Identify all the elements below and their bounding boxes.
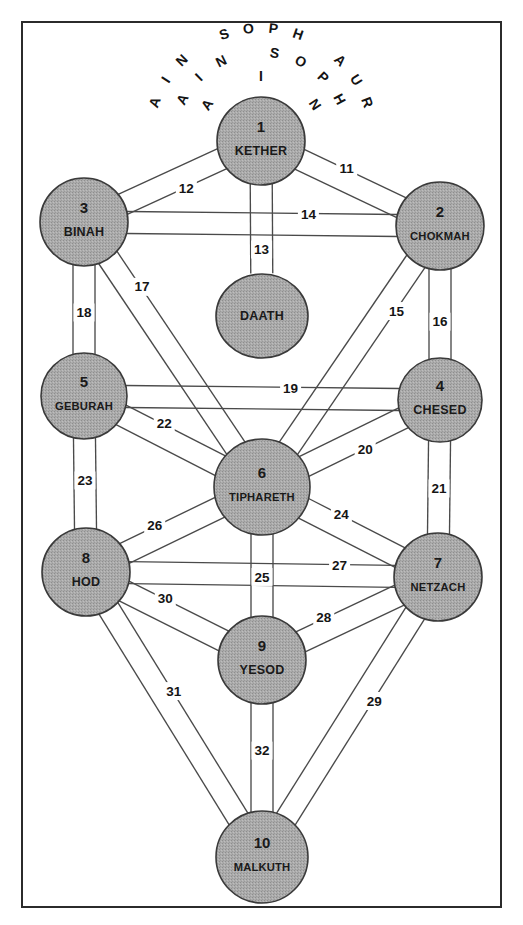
sephirah-malkuth[interactable]: 10MALKUTH [216,811,308,903]
path-number: 20 [358,442,373,457]
sephirah-hod[interactable]: 8HOD [42,528,130,616]
sephirah-number-malkuth: 10 [254,834,271,851]
sephirah-netzach[interactable]: 7NETZACH [394,533,482,621]
sephirah-yesod[interactable]: 9YESOD [218,616,306,704]
path-number: 24 [334,507,350,522]
path-label-29: 29 [364,692,385,710]
veil-letter: I [259,68,263,84]
path-number: 23 [77,473,93,488]
sephirah-number-hod: 8 [82,549,90,566]
path-number: 14 [301,207,317,222]
path-number: 16 [432,314,448,329]
path-label-16: 16 [430,313,451,331]
sephirah-tiphareth[interactable]: 6TIPHARETH [214,439,310,535]
path-number: 21 [431,481,447,496]
sephirah-number-chesed: 4 [436,377,445,394]
path-label-15: 15 [386,302,407,320]
sephirah-name-tiphareth: TIPHARETH [229,491,295,503]
sephirah-number-chokmah: 2 [436,203,444,220]
sephirah-name-malkuth: MALKUTH [234,861,291,873]
path-number: 29 [367,694,382,709]
path-number: 11 [340,161,355,176]
path-label-14: 14 [298,206,319,224]
path-label-22: 22 [154,415,175,433]
path-label-27: 27 [329,557,350,575]
path-number: 15 [389,304,405,319]
sephirah-chokmah[interactable]: 2CHOKMAH [396,182,484,270]
path-number: 13 [254,242,270,257]
veil-letter: O [242,20,255,37]
sephirah-geburah[interactable]: 5GEBURAH [41,353,127,439]
path-number: 31 [166,684,182,699]
sephirah-number-geburah: 5 [80,373,88,390]
sephirah-name-geburah: GEBURAH [55,400,113,412]
path-number: 22 [157,416,172,431]
veil-letter: P [268,20,279,37]
sephirah-name-chokmah: CHOKMAH [410,230,470,242]
path-label-18: 18 [74,303,95,321]
path-label-24: 24 [331,505,352,523]
tree-of-life-diagram: DAATH1KETHER2CHOKMAH3BINAH4CHESED5GEBURA… [0,0,523,925]
sephirah-chesed[interactable]: 4CHESED [398,358,482,442]
path-number: 25 [254,570,270,585]
sephirah-name-daath: DAATH [240,309,284,323]
sephirah-name-yesod: YESOD [240,663,285,677]
path-number: 26 [147,518,163,533]
sephirah-daath[interactable]: DAATH [216,274,308,358]
path-label-19: 19 [280,379,301,397]
path-label-20: 20 [355,441,376,459]
sephirah-number-yesod: 9 [258,637,266,654]
path-label-12: 12 [176,179,197,197]
sephirah-name-binah: BINAH [64,225,105,239]
path-label-32: 32 [252,742,273,760]
path-number: 27 [332,558,347,573]
sephirah-kether[interactable]: 1KETHER [217,97,305,185]
sephirah-number-kether: 1 [257,118,265,135]
sephirah-name-netzach: NETZACH [411,581,466,593]
tree-of-life-canvas: DAATH1KETHER2CHOKMAH3BINAH4CHESED5GEBURA… [0,0,523,925]
path-number: 12 [179,181,194,196]
path-label-13: 13 [251,241,272,259]
path-number: 30 [158,591,173,606]
path-number: 17 [135,279,150,294]
path-label-23: 23 [74,471,95,489]
sephirah-name-kether: KETHER [235,144,288,158]
path-number: 19 [283,381,298,396]
path-label-26: 26 [144,516,165,534]
path-label-30: 30 [155,589,176,607]
sephirah-name-hod: HOD [72,575,100,589]
path-label-25: 25 [252,568,273,586]
sephirah-name-chesed: CHESED [413,403,466,417]
path-label-28: 28 [313,609,334,627]
sephirah-number-netzach: 7 [434,554,442,571]
path-label-11: 11 [336,159,357,177]
path-number: 32 [254,743,269,758]
path-label-17: 17 [132,278,153,296]
path-number: 18 [76,305,92,320]
sephirah-binah[interactable]: 3BINAH [40,178,128,266]
path-number: 28 [316,610,332,625]
sephirah-number-tiphareth: 6 [258,464,266,481]
path-label-31: 31 [163,682,184,700]
path-label-21: 21 [429,480,450,498]
sephirah-number-binah: 3 [80,199,88,216]
